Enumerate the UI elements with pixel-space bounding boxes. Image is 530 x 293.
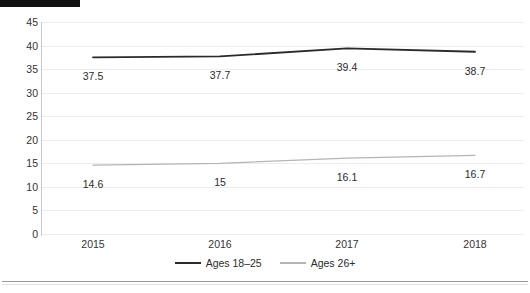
footer-rule-shadow (2, 284, 528, 285)
y-axis-ticks: 051015202530354045 (4, 22, 38, 234)
x-tick-label: 2017 (335, 238, 358, 250)
gridline (42, 234, 524, 235)
y-tick-label: 25 (8, 111, 38, 121)
legend-line-swatch (280, 262, 306, 264)
x-tick-label: 2018 (463, 238, 486, 250)
y-tick-label: 45 (8, 17, 38, 27)
legend-line-swatch (175, 262, 201, 264)
clipped-title-text (200, 0, 530, 5)
legend-item[interactable]: Ages 26+ (280, 257, 356, 269)
y-tick-label: 10 (8, 182, 38, 192)
y-tick-label: 40 (8, 41, 38, 51)
x-axis-ticks: 2015201620172018 (42, 238, 524, 252)
cropped-header-bar (0, 0, 80, 7)
x-tick-label: 2015 (81, 238, 104, 250)
series-lines (42, 22, 524, 234)
plot-area (42, 22, 524, 234)
chart-figure: 051015202530354045 2015201620172018 37.5… (0, 0, 530, 293)
legend-label: Ages 18–25 (206, 257, 262, 269)
y-tick-label: 0 (8, 229, 38, 239)
y-tick-label: 20 (8, 135, 38, 145)
y-tick-label: 30 (8, 88, 38, 98)
y-tick-label: 35 (8, 64, 38, 74)
series-line (93, 155, 475, 165)
footer-rule (2, 281, 528, 282)
y-tick-label: 15 (8, 158, 38, 168)
legend-item[interactable]: Ages 18–25 (175, 257, 262, 269)
series-line (93, 48, 475, 57)
y-tick-label: 5 (8, 205, 38, 215)
legend-label: Ages 26+ (311, 257, 356, 269)
chart-legend: Ages 18–25Ages 26+ (0, 257, 530, 269)
x-tick-label: 2016 (208, 238, 231, 250)
